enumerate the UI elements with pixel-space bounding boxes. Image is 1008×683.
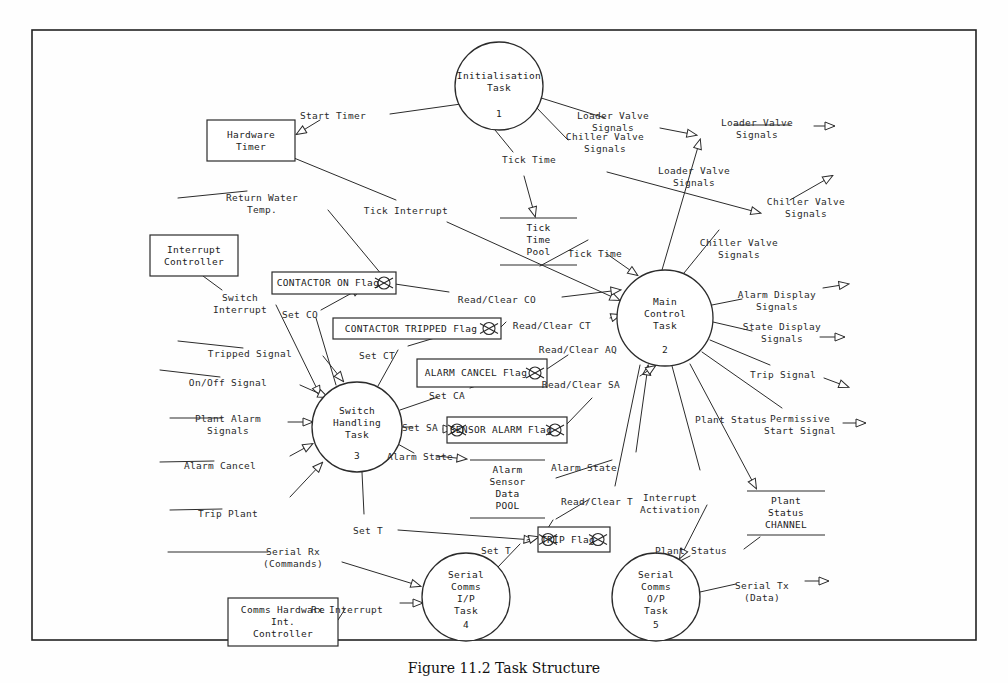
flow-label: Set CO	[235, 309, 365, 321]
flow-label: Loader Valve Signals	[692, 117, 822, 140]
process-name-2: Main Control Task	[607, 296, 723, 332]
process-number-1: 1	[479, 108, 519, 120]
flow-label: Tick Time	[530, 248, 660, 260]
flow-label: Interrupt Activation	[605, 492, 735, 515]
flow-label: Read/Clear AQ	[513, 344, 643, 356]
flow-start-timer	[390, 104, 461, 114]
flow-label: Start Timer	[268, 110, 398, 122]
flow-trip-plant-2	[290, 463, 322, 497]
flow-label: Chiller Valve Signals	[741, 196, 871, 219]
flow-tick-time-1	[495, 130, 513, 152]
flow-tripped-signal	[178, 341, 243, 348]
flow-label: Chiller Valve Signals	[674, 237, 804, 260]
flow-label: On/Off Signal	[163, 377, 293, 389]
process-name-1: Initialisation Task	[445, 70, 553, 94]
flow-alarm-display-arrow	[823, 284, 848, 288]
flow-label: Tick Interrupt	[341, 205, 471, 217]
flag-label: ALARM CANCEL Flag	[396, 367, 556, 379]
process-name-4: Serial Comms I/P Task	[412, 569, 520, 617]
flow-label: Read/Clear CO	[432, 294, 562, 306]
flow-onoff-signal-2	[300, 385, 327, 397]
flow-label: Permissive Start Signal	[735, 413, 865, 436]
flow-label: Rx Interrupt	[282, 604, 412, 616]
flow-label: Loader Valve Signals	[629, 165, 759, 188]
flow-label: Alarm State	[355, 451, 485, 463]
flow-label: Chiller Valve Signals	[540, 131, 670, 154]
flow-label: Tick Time	[464, 154, 594, 166]
flow-label: Alarm Cancel	[155, 460, 285, 472]
flow-label: Tripped Signal	[185, 348, 315, 360]
flow-switch-interrupt	[203, 276, 222, 290]
flow-label: Set T	[431, 545, 561, 557]
terminator-label: Hardware Timer	[194, 129, 308, 153]
flow-label: Set T	[303, 525, 433, 537]
flow-label: Trip Plant	[163, 508, 293, 520]
flow-label: Return Water Temp.	[197, 192, 327, 215]
process-number-2: 2	[645, 344, 685, 356]
flow-label: Set CT	[312, 350, 442, 362]
flow-label: Plant Alarm Signals	[163, 413, 293, 436]
process-number-5: 5	[636, 619, 676, 631]
flow-label: Plant Status	[626, 545, 756, 557]
flow-label: Serial Tx (Data)	[697, 580, 827, 603]
flow-label: Read/Clear CT	[487, 320, 617, 332]
flow-label: Read/Clear SA	[516, 379, 646, 391]
flow-label: Trip Signal	[718, 369, 848, 381]
flag-label: CONTACTOR ON Flag	[251, 277, 405, 289]
store-label: Plant Status CHANNEL	[726, 495, 846, 531]
flow-tick-time-1b	[524, 176, 535, 216]
flow-set-t	[362, 472, 364, 514]
flow-readclear-sa	[567, 398, 592, 424]
flag-label: CONTACTOR TRIPPED Flag	[312, 323, 510, 335]
flow-label: Alarm State	[519, 462, 649, 474]
flow-label: Serial Rx (Commands)	[228, 546, 358, 569]
terminator-label: Interrupt Controller	[137, 244, 251, 268]
flow-label: Loader Valve Signals	[548, 110, 678, 133]
flow-label: State Display Signals	[717, 321, 847, 344]
flow-alarm-cancel-2	[290, 444, 312, 456]
figure-caption: Figure 11.2 Task Structure	[0, 660, 1008, 676]
flag-label: TRIP Flag	[517, 534, 619, 546]
flow-label: Set CA	[382, 390, 512, 402]
flow-onoff-signal	[160, 370, 220, 377]
flow-label: Alarm Display Signals	[712, 289, 842, 312]
process-name-5: Serial Comms O/P Task	[602, 569, 710, 617]
process-number-4: 4	[446, 619, 486, 631]
diagram-canvas: Initialisation Task1Main Control Task2Sw…	[0, 0, 1008, 683]
flow-label: Set SA	[355, 422, 485, 434]
